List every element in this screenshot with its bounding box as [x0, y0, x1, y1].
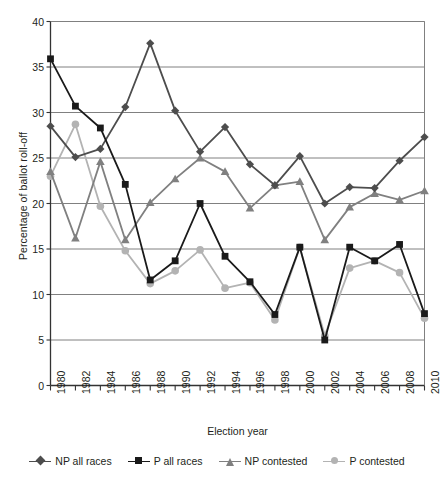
x-tick-label: 1980 — [55, 370, 67, 393]
marker-triangle — [420, 186, 429, 194]
x-tick-label: 1988 — [155, 370, 167, 393]
marker-square — [147, 277, 154, 284]
x-tick-label: 2004 — [354, 370, 366, 393]
legend-diamond-icon — [29, 456, 51, 467]
marker-square — [47, 55, 54, 62]
x-tick-label: 2000 — [304, 370, 316, 393]
x-tick-label: 2002 — [329, 370, 341, 393]
marker-square — [396, 241, 403, 248]
x-tick-label: 1992 — [205, 370, 217, 393]
x-tick-label: 1996 — [254, 370, 266, 393]
marker-triangle — [96, 157, 105, 165]
marker-diamond — [171, 107, 179, 115]
x-tick-label: 2006 — [379, 370, 391, 393]
marker-square — [222, 253, 229, 260]
x-tick-label: 1986 — [130, 370, 142, 393]
marker-square — [197, 200, 204, 207]
marker-circle — [196, 246, 204, 254]
marker-diamond — [96, 145, 104, 153]
legend-item-p-all-races: P all races — [128, 455, 203, 467]
marker-circle — [221, 284, 229, 292]
x-tick-label: 1982 — [80, 370, 92, 393]
marker-circle — [72, 121, 80, 129]
x-tick-label: 1998 — [279, 370, 291, 393]
legend-item-np-all-races: NP all races — [29, 455, 111, 467]
marker-triangle — [71, 234, 80, 242]
marker-square — [296, 244, 303, 251]
marker-circle — [346, 264, 354, 272]
marker-diamond — [146, 39, 154, 47]
marker-diamond — [121, 103, 129, 111]
marker-square — [321, 337, 328, 344]
series-line — [51, 158, 425, 240]
chart-legend: NP all racesP all racesNP contestedP con… — [0, 455, 434, 467]
marker-square — [97, 125, 104, 132]
legend-triangle-icon — [219, 456, 241, 467]
x-tick-label: 2010 — [429, 370, 441, 393]
legend-item-np-contested: NP contested — [219, 455, 308, 467]
series-line — [51, 59, 425, 340]
marker-triangle — [345, 203, 354, 211]
marker-square — [247, 278, 254, 285]
x-tick-label: 1994 — [230, 370, 242, 393]
legend-circle-icon — [323, 456, 345, 467]
marker-square — [122, 181, 129, 188]
series-np-all-races — [46, 39, 428, 207]
legend-item-p-contested: P contested — [323, 455, 404, 467]
legend-label: P all races — [154, 455, 203, 467]
x-tick-label: 1984 — [105, 370, 117, 393]
legend-square-icon — [128, 456, 150, 467]
marker-square — [421, 310, 428, 317]
marker-square — [72, 103, 79, 110]
marker-circle — [171, 267, 179, 275]
legend-label: P contested — [349, 455, 404, 467]
series-p-contested — [47, 121, 429, 340]
marker-circle — [122, 247, 130, 255]
marker-triangle — [221, 167, 230, 175]
legend-label: NP contested — [245, 455, 308, 467]
x-axis-title: Election year — [50, 425, 425, 437]
series-line — [51, 124, 425, 335]
x-tick-label: 2008 — [404, 370, 416, 393]
marker-circle — [396, 269, 404, 277]
series-np-contested — [46, 154, 429, 244]
marker-square — [346, 244, 353, 251]
marker-square — [272, 311, 279, 318]
gridlines — [51, 22, 425, 386]
series-p-all-races — [47, 55, 428, 343]
legend-label: NP all races — [55, 455, 111, 467]
marker-square — [172, 257, 179, 264]
marker-square — [371, 257, 378, 264]
x-tick-label: 1990 — [180, 370, 192, 393]
marker-circle — [97, 202, 105, 210]
